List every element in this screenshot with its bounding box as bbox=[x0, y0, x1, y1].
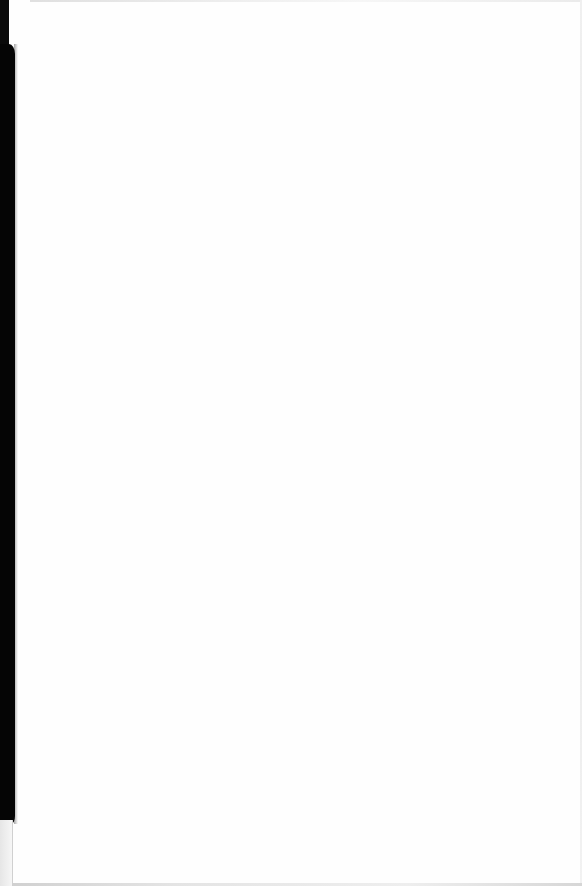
scanned-document bbox=[0, 0, 582, 886]
paper-top-edge bbox=[30, 0, 582, 2]
binding-shadow bbox=[0, 44, 15, 824]
page-fold-bottom-left bbox=[0, 820, 13, 886]
blank-page bbox=[0, 0, 582, 886]
binding-shadow-top bbox=[0, 0, 9, 50]
binding-shadow-gradient bbox=[14, 44, 18, 824]
